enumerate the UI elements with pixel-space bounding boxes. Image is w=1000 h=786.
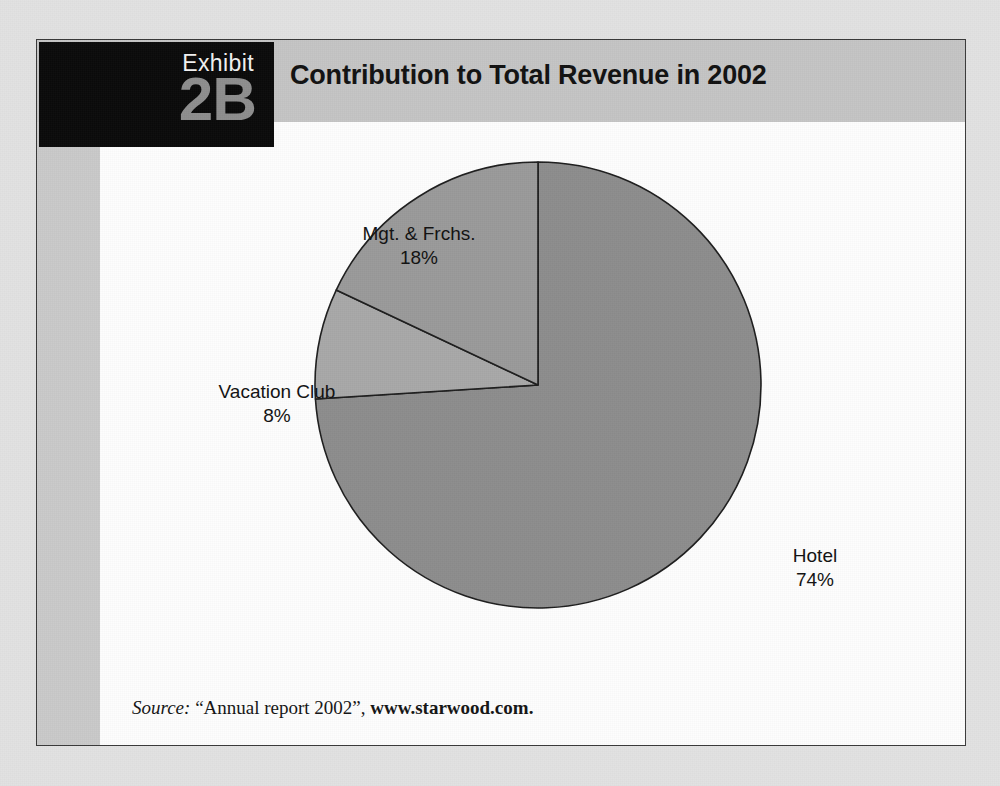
pie-label-mgt-frchs: Mgt. & Frchs. 18% — [314, 222, 524, 270]
page-title: Contribution to Total Revenue in 2002 — [290, 60, 767, 91]
pie-label-mgt-frchs-value: 18% — [314, 246, 524, 270]
exhibit-badge-number: 2B — [179, 68, 256, 130]
pie-label-hotel: Hotel 74% — [740, 544, 890, 592]
pie-chart: Mgt. & Frchs. 18% Vacation Club 8% Hotel… — [100, 122, 965, 745]
source-prefix: Source: — [132, 697, 190, 718]
source-url: www.starwood.com. — [370, 697, 533, 718]
exhibit-body-panel: Mgt. & Frchs. 18% Vacation Club 8% Hotel… — [100, 122, 965, 745]
exhibit-badge: Exhibit 2B — [39, 42, 274, 147]
exhibit-card: Mgt. & Frchs. 18% Vacation Club 8% Hotel… — [36, 39, 966, 746]
source-note: Source: “Annual report 2002”, www.starwo… — [132, 697, 533, 719]
pie-label-vacation-club-value: 8% — [172, 404, 382, 428]
pie-label-hotel-value: 74% — [740, 568, 890, 592]
pie-label-mgt-frchs-name: Mgt. & Frchs. — [314, 222, 524, 246]
pie-label-vacation-club-name: Vacation Club — [172, 380, 382, 404]
pie-label-hotel-name: Hotel — [740, 544, 890, 568]
source-citation: “Annual report 2002”, — [195, 697, 365, 718]
pie-label-vacation-club: Vacation Club 8% — [172, 380, 382, 428]
